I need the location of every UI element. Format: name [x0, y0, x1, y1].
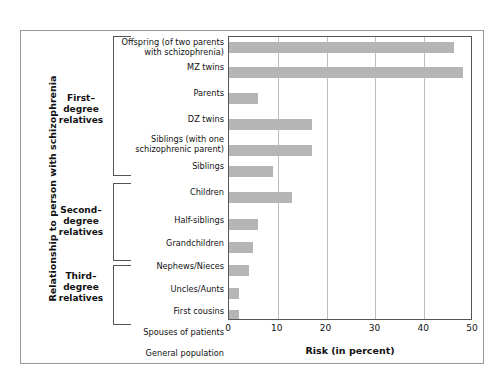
group-label-line-2: degree [52, 216, 110, 227]
group-label-line-1: First– [52, 93, 110, 104]
group-label-third-degree: Third– degree relatives [52, 271, 110, 304]
bar-offspring [229, 42, 454, 53]
bar-dz-twins [229, 119, 312, 130]
bar-first-cousins [229, 310, 239, 320]
plot-area [228, 36, 472, 320]
category-label-siblings: Siblings [116, 162, 224, 172]
category-label-uncles-aunts: Uncles/Aunts [116, 285, 224, 295]
group-label-line-1: Second– [52, 205, 110, 216]
category-label-offspring: Offspring (of two parents with schizophr… [116, 38, 224, 57]
x-axis-title: Risk (in percent) [228, 345, 472, 356]
group-label-line-3: relatives [52, 293, 110, 304]
bar-grandchildren [229, 242, 253, 253]
x-tick-20: 20 [311, 323, 341, 333]
category-label-nephews-nieces: Nephews/Nieces [116, 262, 224, 272]
category-label-dz-twins: DZ twins [116, 115, 224, 125]
category-label-parents: Parents [116, 89, 224, 99]
group-label-line-3: relatives [52, 227, 110, 238]
bar-half-siblings [229, 219, 258, 230]
gridline-10 [278, 37, 279, 319]
bar-nephews-nieces [229, 265, 249, 276]
group-label-line-1: Third– [52, 271, 110, 282]
x-tick-50: 50 [457, 323, 487, 333]
group-label-line-2: degree [52, 282, 110, 293]
bar-siblings-one-parent [229, 145, 312, 156]
category-label-siblings-one-parent: Siblings (with one schizophrenic parent) [116, 135, 224, 154]
group-label-line-2: degree [52, 104, 110, 115]
x-tick-0: 0 [213, 323, 243, 333]
group-label-first-degree: First– degree relatives [52, 93, 110, 126]
category-label-spouses: Spouses of patients [116, 328, 224, 338]
category-label-mz-twins: MZ twins [116, 63, 224, 73]
category-label-children: Children [116, 188, 224, 198]
chart-figure: Relationship to person with schizophreni… [0, 0, 503, 383]
gridline-30 [375, 37, 376, 319]
bar-mz-twins [229, 67, 463, 78]
category-label-line-2: with schizophrenia) [116, 48, 224, 58]
bar-uncles-aunts [229, 288, 239, 299]
category-label-first-cousins: First cousins [116, 307, 224, 317]
gridline-20 [327, 37, 328, 319]
category-label-half-siblings: Half-siblings [116, 216, 224, 226]
gridline-40 [424, 37, 425, 319]
x-tick-10: 10 [262, 323, 292, 333]
bar-parents [229, 93, 258, 104]
category-label-column: Offspring (of two parents with schizophr… [118, 36, 228, 320]
bar-children [229, 192, 292, 203]
x-tick-40: 40 [408, 323, 438, 333]
category-label-line-2: schizophrenic parent) [116, 145, 224, 155]
category-label-general-population: General population [116, 349, 224, 359]
x-tick-30: 30 [359, 323, 389, 333]
bar-siblings [229, 166, 273, 177]
group-label-second-degree: Second– degree relatives [52, 205, 110, 238]
group-label-line-3: relatives [52, 115, 110, 126]
category-label-grandchildren: Grandchildren [116, 239, 224, 249]
